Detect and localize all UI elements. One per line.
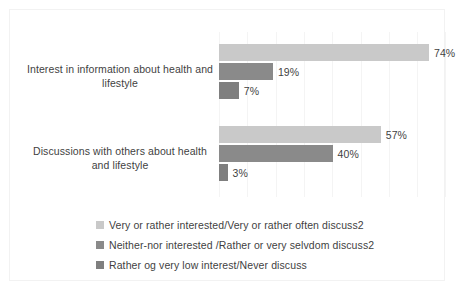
bar-value-label: 19% (278, 66, 299, 78)
category-label-1: Discussions with others about health and… (24, 144, 216, 172)
bar-value-label: 40% (338, 148, 359, 160)
chart-legend: Very or rather interested/Very or rather… (96, 215, 426, 275)
bar-series-3-cat-0[interactable] (219, 82, 239, 99)
legend-swatch-icon (96, 221, 104, 229)
bar-series-1-cat-0[interactable] (219, 44, 429, 61)
bar-series-2-cat-1[interactable] (219, 145, 333, 162)
bar-series-3-cat-1[interactable] (219, 164, 228, 181)
bar-group-0: 74% 19% 7% (219, 44, 446, 101)
legend-item-1[interactable]: Neither-nor interested /Rather or very s… (96, 235, 426, 255)
legend-label: Very or rather interested/Very or rather… (109, 219, 364, 231)
bar-value-label: 7% (244, 85, 259, 97)
category-label-0: Interest in information about health and… (24, 62, 216, 90)
legend-swatch-icon (96, 261, 104, 269)
bar-group-1: 57% 40% 3% (219, 126, 446, 183)
legend-item-2[interactable]: Rather og very low interest/Never discus… (96, 255, 426, 275)
bar-series-1-cat-1[interactable] (219, 126, 381, 143)
chart-frame: Interest in information about health and… (9, 9, 445, 281)
bar-value-label: 3% (233, 167, 248, 179)
bar-series-2-cat-0[interactable] (219, 63, 273, 80)
bar-value-label: 74% (434, 47, 455, 59)
plot-area: 74% 19% 7% 57% 40% 3% (219, 32, 446, 197)
legend-label: Rather og very low interest/Never discus… (109, 259, 307, 271)
legend-item-0[interactable]: Very or rather interested/Very or rather… (96, 215, 426, 235)
legend-label: Neither-nor interested /Rather or very s… (109, 239, 374, 251)
bar-value-label: 57% (386, 129, 407, 141)
legend-swatch-icon (96, 241, 104, 249)
